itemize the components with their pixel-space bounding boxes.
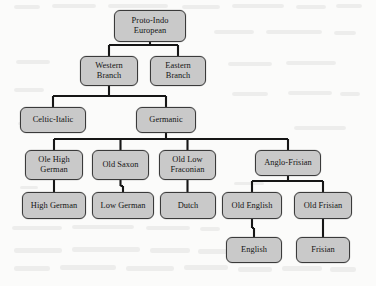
- node-anglo-frisian[interactable]: Anglo-Frisian: [255, 150, 321, 176]
- node-label: Old English: [232, 201, 273, 211]
- node-label: Dutch: [178, 201, 199, 211]
- node-low-german[interactable]: Low German: [92, 192, 154, 219]
- node-high-german[interactable]: High German: [22, 192, 86, 219]
- node-frisian[interactable]: Frisian: [296, 237, 350, 263]
- node-proto[interactable]: Proto-Indo European: [114, 10, 186, 42]
- diagram-canvas: Proto-Indo EuropeanWestern BranchEastern…: [0, 0, 376, 286]
- node-dutch[interactable]: Dutch: [160, 192, 216, 219]
- node-label: Proto-Indo European: [132, 16, 169, 36]
- node-label: High German: [31, 201, 77, 211]
- node-label: Low German: [101, 201, 146, 211]
- node-label: Old Saxon: [102, 160, 138, 170]
- node-western[interactable]: Western Branch: [80, 56, 138, 86]
- node-old-saxon[interactable]: Old Saxon: [92, 150, 149, 180]
- node-old-frisian[interactable]: Old Frisian: [294, 192, 352, 219]
- node-old-low-fraconian[interactable]: Old Low Fraconian: [159, 150, 216, 180]
- node-celtic-italic[interactable]: Celtic-Italic: [20, 107, 86, 133]
- node-label: Eastern Branch: [165, 61, 190, 81]
- node-germanic[interactable]: Germanic: [136, 107, 196, 133]
- node-label: Germanic: [149, 115, 182, 125]
- node-label: Anglo-Frisian: [264, 158, 312, 168]
- node-eastern[interactable]: Eastern Branch: [150, 56, 206, 86]
- node-old-english[interactable]: Old English: [222, 192, 282, 219]
- node-label: Ole High German: [38, 155, 69, 175]
- node-ole-high-german[interactable]: Ole High German: [25, 150, 83, 180]
- node-label: Old Frisian: [304, 201, 342, 211]
- node-label: Celtic-Italic: [33, 115, 74, 125]
- node-label: English: [241, 245, 267, 255]
- node-english[interactable]: English: [226, 237, 282, 263]
- node-label: Frisian: [311, 245, 335, 255]
- node-label: Old Low Fraconian: [171, 155, 205, 175]
- node-label: Western Branch: [95, 61, 123, 81]
